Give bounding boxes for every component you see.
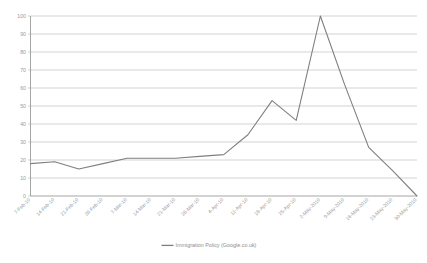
- legend-label: Immigration Policy (Google.co.uk): [176, 242, 257, 248]
- y-axis-tick-label: 100: [17, 13, 26, 19]
- y-axis-tick-label: 10: [20, 175, 26, 181]
- y-axis-tick-label: 70: [20, 67, 26, 73]
- y-axis-tick-label: 80: [20, 49, 26, 55]
- y-axis-tick-label: 30: [20, 139, 26, 145]
- y-axis-tick-label: 90: [20, 31, 26, 37]
- y-axis-tick-label: 60: [20, 85, 26, 91]
- y-axis-tick-label: 20: [20, 157, 26, 163]
- y-axis-tick-label: 50: [20, 103, 26, 109]
- line-chart: 0102030405060708090100 7-Feb-1014-Feb-10…: [0, 0, 427, 263]
- chart-container: 0102030405060708090100 7-Feb-1014-Feb-10…: [0, 0, 427, 263]
- chart-legend: Immigration Policy (Google.co.uk): [162, 242, 257, 248]
- y-axis-tick-label: 40: [20, 121, 26, 127]
